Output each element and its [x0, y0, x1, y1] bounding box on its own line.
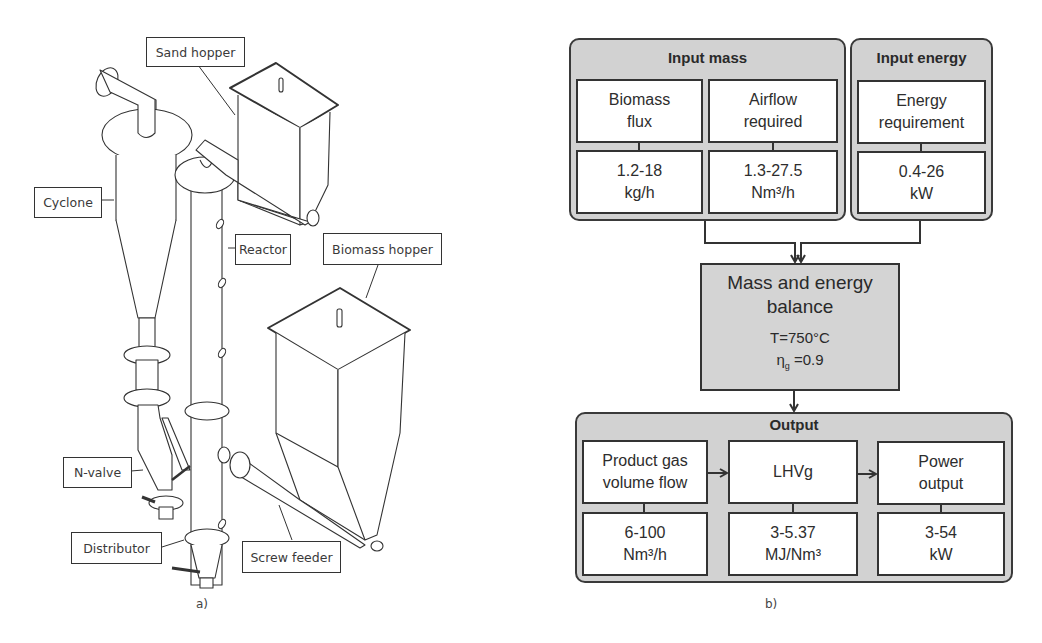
energy-requirement-label-line1: Energy: [896, 90, 947, 112]
input-mass-title: Input mass: [571, 49, 844, 66]
product-gas-unit: Nm³/h: [623, 544, 667, 566]
arrow-input-energy-to-balance: [801, 221, 920, 262]
lhvg-label-box: LHVg: [728, 440, 858, 504]
mass-energy-balance-box: Mass and energy balance T=750°C ηg =0.9: [700, 263, 900, 391]
connector-line: [772, 143, 774, 150]
connector-line: [792, 504, 794, 512]
power-output-unit: kW: [929, 544, 952, 566]
eta-value: =0.9: [790, 351, 824, 368]
product-gas-label-line2: volume flow: [603, 472, 687, 494]
lhvg-value-box: 3-5.37 MJ/Nm³: [728, 512, 858, 576]
airflow-unit: Nm³/h: [751, 182, 795, 204]
callout-cyclone: Cyclone: [34, 187, 102, 218]
connector-line: [920, 144, 922, 151]
biomass-flux-value: 1.2-18: [617, 160, 662, 182]
power-output-value-box: 3-54 kW: [877, 512, 1005, 576]
power-output-label-line2: output: [919, 473, 963, 495]
eta-symbol: η: [776, 351, 784, 368]
product-gas-value-box: 6-100 Nm³/h: [582, 512, 708, 576]
connector-line: [940, 505, 942, 512]
airflow-label-line2: required: [744, 111, 803, 133]
energy-requirement-value: 0.4-26: [899, 161, 944, 183]
power-output-label-box: Power output: [877, 441, 1005, 505]
callout-distributor: Distributor: [71, 532, 162, 564]
balance-title-line2: balance: [702, 295, 898, 319]
output-title: Output: [577, 416, 1011, 433]
arrow-input-mass-to-balance: [705, 221, 795, 262]
panel-b-caption: b): [765, 597, 777, 611]
airflow-value-box: 1.3-27.5 Nm³/h: [708, 150, 838, 214]
input-energy-title: Input energy: [852, 49, 991, 66]
balance-title-line1: Mass and energy: [702, 271, 898, 295]
energy-requirement-label-box: Energy requirement: [857, 80, 986, 144]
connector-line: [643, 504, 645, 512]
lhvg-unit: MJ/Nm³: [765, 544, 821, 566]
callout-screw-feeder: Screw feeder: [242, 541, 341, 573]
energy-requirement-unit: kW: [910, 183, 933, 205]
power-output-label-line1: Power: [918, 451, 963, 473]
product-gas-label-line1: Product gas: [602, 450, 687, 472]
energy-requirement-value-box: 0.4-26 kW: [857, 151, 986, 214]
airflow-value: 1.3-27.5: [744, 160, 803, 182]
biomass-flux-label-line1: Biomass: [609, 89, 670, 111]
lhvg-value: 3-5.37: [770, 522, 815, 544]
callout-n-valve: N-valve: [63, 457, 132, 488]
callout-sand-hopper: Sand hopper: [146, 37, 245, 67]
airflow-label-line1: Airflow: [749, 89, 797, 111]
lhvg-label: LHVg: [773, 461, 813, 483]
biomass-flux-value-box: 1.2-18 kg/h: [576, 150, 703, 214]
gasifier-3d-drawing: Sand hopper Cyclone Reactor Biomass hopp…: [0, 0, 540, 643]
biomass-flux-label-box: Biomass flux: [576, 79, 703, 143]
airflow-label-box: Airflow required: [708, 79, 838, 143]
balance-efficiency: ηg =0.9: [702, 349, 898, 377]
callout-biomass-hopper: Biomass hopper: [323, 233, 442, 265]
biomass-flux-label-line2: flux: [627, 111, 652, 133]
balance-temperature: T=750°C: [702, 327, 898, 349]
product-gas-label-box: Product gas volume flow: [582, 440, 708, 504]
callout-reactor: Reactor: [235, 234, 291, 265]
biomass-flux-unit: kg/h: [624, 182, 654, 204]
power-output-value: 3-54: [925, 522, 957, 544]
connector-line: [638, 143, 640, 150]
energy-requirement-label-line2: requirement: [879, 112, 964, 134]
product-gas-value: 6-100: [625, 522, 666, 544]
panel-a-caption: a): [196, 597, 208, 611]
